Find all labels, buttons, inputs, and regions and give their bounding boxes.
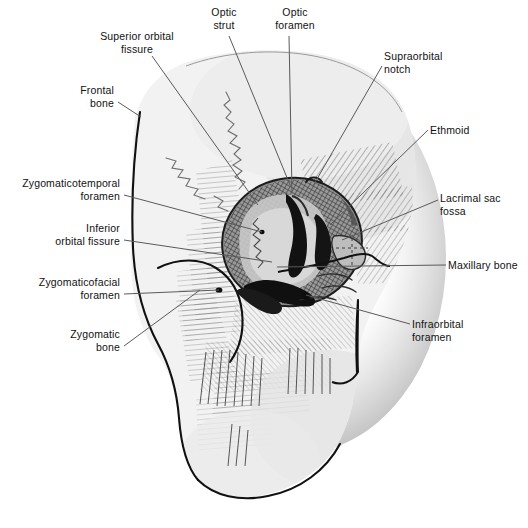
label-supraorbital-notch: Supraorbital notch [384, 50, 470, 75]
label-superior-orbital-fissure: Superior orbital fissure [82, 30, 192, 55]
label-frontal-bone: Frontal bone [34, 84, 114, 109]
label-optic-strut: Optic strut [196, 6, 252, 31]
label-lacrimal-sac-fossa: Lacrimal sac fossa [440, 192, 524, 217]
label-inferior-orbital-fissure: Inferior orbital fissure [22, 222, 120, 247]
label-infraorbital-foramen: Infraorbital foramen [412, 318, 496, 343]
anatomical-figure: Superior orbital fissureOptic strutOptic… [0, 0, 528, 528]
leader-line-frontal-bone [118, 102, 141, 117]
label-zygomaticotemporal-foramen: Zygomaticotemporal foramen [8, 177, 120, 202]
label-ethmoid: Ethmoid [430, 124, 492, 137]
label-zygomaticofacial-foramen: Zygomaticofacial foramen [18, 276, 120, 301]
label-optic-foramen: Optic foramen [262, 6, 328, 31]
label-maxillary-bone: Maxillary bone [448, 259, 528, 272]
label-zygomatic-bone: Zygomatic bone [46, 328, 120, 353]
